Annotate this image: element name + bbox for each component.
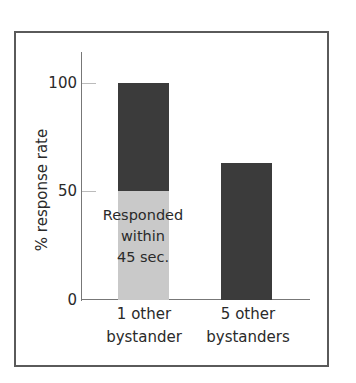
annotation-line-1: Responded (93, 205, 193, 226)
y-axis (81, 52, 82, 301)
y-tick-label-0: 0 (37, 292, 77, 308)
y-tick-100 (82, 83, 96, 84)
annotation-responded-within: Responded within 45 sec. (93, 205, 193, 268)
x-label-line-2: bystanders (193, 326, 303, 349)
x-label-line-2: bystander (89, 326, 199, 349)
y-tick-50 (82, 191, 96, 192)
x-axis (81, 299, 310, 300)
y-tick-label-100: 100 (37, 75, 77, 91)
annotation-line-3: 45 sec. (93, 247, 193, 268)
x-label-1-other-bystander: 1 other bystander (89, 303, 199, 349)
x-label-line-1: 1 other (89, 303, 199, 326)
y-tick-label-50: 50 (37, 183, 77, 199)
x-label-line-1: 5 other (193, 303, 303, 326)
x-label-5-other-bystanders: 5 other bystanders (193, 303, 303, 349)
bar-5-other-bystanders (221, 163, 272, 300)
annotation-line-2: within (93, 226, 193, 247)
bar-segment-later (118, 83, 169, 191)
